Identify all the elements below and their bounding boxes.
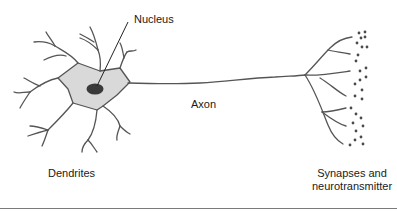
axon-terminal — [305, 37, 352, 75]
neuron-diagram: Nucleus Axon Dendrites Synapses and neur… — [0, 0, 397, 213]
dendrite — [88, 110, 97, 140]
dendrite — [48, 103, 73, 130]
nucleus-label: Nucleus — [134, 13, 174, 26]
synapses-label: Synapses and neurotransmitter — [308, 167, 396, 193]
dendrite — [98, 50, 100, 71]
dendrite — [30, 78, 58, 92]
synapses-label-line2: neurotransmitter — [308, 180, 396, 193]
dendrites-label: Dendrites — [48, 167, 95, 180]
dendrite — [55, 46, 78, 63]
axon-label: Axon — [191, 98, 216, 111]
neurotransmitter-dots — [349, 31, 369, 147]
axon — [128, 75, 305, 84]
bottom-divider — [0, 208, 397, 209]
nucleus — [87, 84, 104, 95]
dendrite — [103, 106, 120, 126]
synapses-label-line1: Synapses and — [308, 167, 396, 180]
